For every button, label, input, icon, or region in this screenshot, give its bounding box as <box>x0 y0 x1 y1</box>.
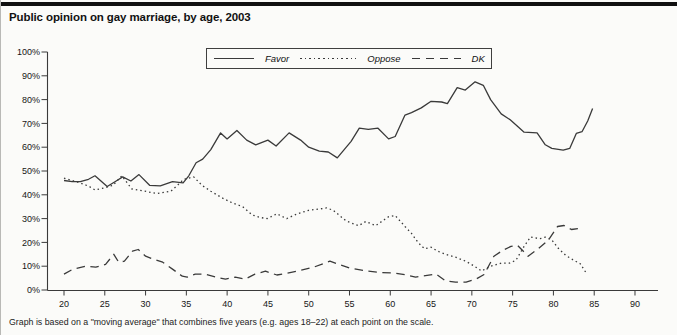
svg-text:50: 50 <box>304 299 314 309</box>
svg-text:20: 20 <box>59 299 69 309</box>
svg-text:0%: 0% <box>27 285 40 295</box>
svg-text:100%: 100% <box>17 47 40 57</box>
svg-text:65: 65 <box>426 299 436 309</box>
svg-text:80: 80 <box>548 299 558 309</box>
legend-label-dk: DK <box>472 53 485 64</box>
svg-text:85: 85 <box>589 299 599 309</box>
svg-text:40%: 40% <box>22 190 40 200</box>
svg-text:90: 90 <box>630 299 640 309</box>
svg-text:35: 35 <box>181 299 191 309</box>
svg-text:45: 45 <box>263 299 273 309</box>
dk-line-sample <box>412 58 461 60</box>
svg-text:10%: 10% <box>22 261 40 271</box>
svg-text:55: 55 <box>344 299 354 309</box>
svg-text:80%: 80% <box>22 95 40 105</box>
svg-text:90%: 90% <box>22 71 40 81</box>
legend-label-oppose: Oppose <box>367 53 400 64</box>
favor-line-sample <box>214 58 254 60</box>
oppose-line-sample <box>300 58 356 59</box>
svg-text:75: 75 <box>508 299 518 309</box>
svg-text:30%: 30% <box>22 214 40 224</box>
svg-text:60%: 60% <box>22 142 40 152</box>
legend-label-favor: Favor <box>265 53 289 64</box>
svg-text:25: 25 <box>100 299 110 309</box>
svg-text:70%: 70% <box>22 119 40 129</box>
svg-text:60: 60 <box>385 299 395 309</box>
svg-text:30: 30 <box>141 299 151 309</box>
svg-text:70: 70 <box>467 299 477 309</box>
svg-text:20%: 20% <box>22 238 40 248</box>
chart-legend: Favor Oppose DK <box>206 48 492 69</box>
source-note: Graph is based on a "moving average" tha… <box>9 317 433 327</box>
svg-text:50%: 50% <box>22 166 40 176</box>
svg-text:40: 40 <box>222 299 232 309</box>
